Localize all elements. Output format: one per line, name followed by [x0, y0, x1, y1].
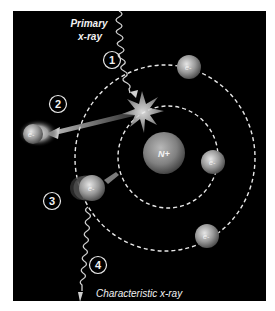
xrf-diagram: N+ e- e- e- e- e- 1 2 3: [0, 0, 275, 311]
electron-label: e-: [88, 185, 95, 192]
electron-ejected: e-: [18, 119, 58, 147]
electron-label: e-: [28, 131, 35, 138]
step-number: 1: [109, 54, 115, 66]
step-number: 4: [95, 259, 102, 271]
electron-inner-right: e-: [201, 150, 225, 174]
primary-xray-label-line2: x-ray: [77, 31, 102, 42]
electron-label: e-: [209, 159, 216, 166]
characteristic-xray-label: Characteristic x-ray: [96, 288, 183, 299]
nucleus-label: N+: [158, 149, 170, 159]
step-number: 2: [55, 98, 61, 110]
step-number: 3: [49, 195, 55, 207]
electron-bottom-right: e-: [195, 224, 219, 248]
electron-top-right: e-: [177, 55, 201, 79]
electron-label: e-: [203, 233, 210, 240]
nucleus: N+: [143, 132, 185, 174]
background-panel: [13, 11, 266, 301]
electron-label: e-: [185, 64, 192, 71]
primary-xray-label-line1: Primary: [70, 18, 108, 29]
